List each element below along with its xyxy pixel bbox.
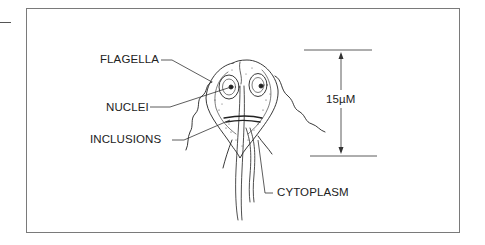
cytoplasm-label: CYTOPLASM — [277, 186, 349, 198]
left-flagellum — [186, 82, 212, 150]
right-flagellum — [275, 76, 325, 132]
cytoplasm-leader — [258, 140, 273, 193]
scale-bar-label: 15µM — [326, 93, 355, 105]
inclusions-label: INCLUSIONS — [90, 133, 161, 145]
flagella-label: FLAGELLA — [100, 53, 159, 65]
nuclei-label: NUCLEI — [106, 101, 149, 113]
inclusions-leader — [172, 120, 230, 140]
flagella-leader — [161, 60, 212, 82]
organism-illustration — [0, 0, 485, 245]
